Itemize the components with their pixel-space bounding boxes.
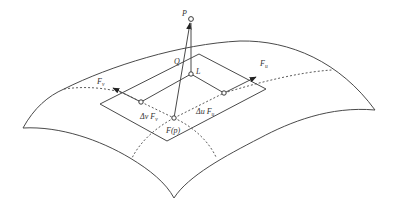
label-Fu: Fu — [259, 59, 268, 69]
point-L — [189, 72, 193, 76]
label-P: P — [181, 9, 187, 18]
label-du-Fu: Δu Fu — [195, 107, 215, 117]
label-dv-Fv: Δv Fv — [139, 112, 158, 122]
label-Fp: F(p) — [165, 126, 181, 135]
projection-lines — [174, 23, 191, 118]
tangent-vectors — [113, 77, 256, 102]
surface-tangent-plane-diagram: P Q L Fu Fv Δu Fu Δv Fv F(p) — [0, 0, 393, 211]
point-du — [222, 91, 226, 95]
label-Q: Q — [174, 57, 180, 66]
label-L: L — [195, 67, 201, 76]
Fp-to-P-line — [174, 23, 190, 118]
point-dv — [139, 100, 143, 104]
point-P — [189, 17, 194, 22]
point-Fp — [172, 116, 176, 120]
label-Fv: Fv — [96, 77, 105, 87]
surface-outline — [23, 41, 375, 198]
